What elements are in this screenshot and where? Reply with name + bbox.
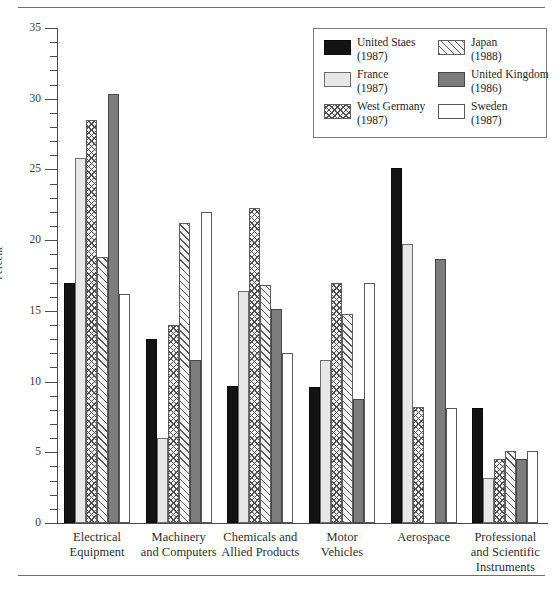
y-tick-label: 10 [17, 375, 41, 387]
bar-group [146, 28, 212, 523]
y-tick-minor [50, 509, 58, 510]
bar [516, 459, 527, 523]
bar [505, 451, 516, 523]
y-tick-minor [50, 56, 58, 57]
legend-series-name: France [357, 68, 388, 80]
y-tick-major [45, 28, 58, 29]
y-tick-minor [50, 325, 58, 326]
legend-swatch-crosshatch [324, 104, 351, 119]
y-tick-minor [50, 297, 58, 298]
chart-figure: 05101520253035 Percent ElectricalEquipme… [0, 0, 559, 590]
y-tick-minor [50, 127, 58, 128]
y-tick-label: 25 [17, 162, 41, 174]
x-category-label-line: Instruments [445, 560, 559, 575]
legend-label: Sweden(1987) [471, 100, 507, 127]
y-tick-label: 20 [17, 233, 41, 245]
x-category-label-line: Professional [445, 530, 559, 545]
legend-entry: Japan(1988) [438, 38, 544, 70]
bar [282, 353, 293, 523]
y-tick-minor [50, 466, 58, 467]
bar [227, 386, 238, 523]
legend-series-year: (1987) [471, 114, 507, 128]
bar [435, 259, 446, 523]
bar [157, 438, 168, 523]
legend-entry: West Germany(1987) [324, 102, 436, 134]
y-tick-minor [50, 42, 58, 43]
y-tick-minor [50, 481, 58, 482]
legend-column-left: United Staes(1987)France(1987)West Germa… [324, 38, 436, 134]
y-tick-minor [50, 283, 58, 284]
y-tick-minor [50, 353, 58, 354]
bar [494, 459, 505, 523]
bar [331, 283, 342, 523]
y-tick-label: 15 [17, 304, 41, 316]
y-tick-major [45, 99, 58, 100]
bar [238, 291, 249, 523]
bar-group [227, 28, 293, 523]
y-tick-major [45, 311, 58, 312]
bar [97, 257, 108, 523]
legend-series-name: Japan [471, 36, 497, 48]
bar [446, 408, 457, 523]
y-tick-minor [50, 141, 58, 142]
bar [190, 360, 201, 523]
y-tick-major [45, 240, 58, 241]
legend-entry: France(1987) [324, 70, 436, 102]
legend-swatch-diagonal-hatch [438, 40, 465, 55]
chart-legend: United Staes(1987)France(1987)West Germa… [313, 28, 547, 138]
bottom-rule [18, 575, 545, 576]
legend-entry: Sweden(1987) [438, 102, 544, 134]
legend-swatch-black [324, 40, 351, 55]
y-tick-label: 35 [17, 21, 41, 33]
y-tick-minor [50, 396, 58, 397]
bar-group [64, 28, 130, 523]
x-axis-line [57, 523, 548, 524]
legend-label: United Kingdom(1986) [471, 68, 549, 95]
y-tick-minor [50, 155, 58, 156]
legend-swatch-light-gray [324, 72, 351, 87]
legend-entry: United Kingdom(1986) [438, 70, 544, 102]
y-tick-major [45, 523, 58, 524]
legend-series-year: (1987) [357, 82, 388, 96]
legend-series-year: (1988) [471, 50, 502, 64]
bar [402, 244, 413, 523]
bar [527, 451, 538, 523]
bar [353, 399, 364, 523]
y-tick-minor [50, 268, 58, 269]
bar [249, 208, 260, 523]
y-tick-major [45, 452, 58, 453]
y-tick-minor [50, 184, 58, 185]
bar [364, 283, 375, 523]
bar [309, 387, 320, 523]
legend-series-year: (1987) [357, 50, 415, 64]
y-tick-label: 0 [17, 516, 41, 528]
bar [260, 285, 271, 523]
y-tick-minor [50, 85, 58, 86]
bar [108, 94, 119, 523]
y-tick-minor [50, 438, 58, 439]
bar [271, 309, 282, 523]
legend-series-year: (1987) [357, 114, 425, 128]
legend-column-right: Japan(1988)United Kingdom(1986)Sweden(19… [438, 38, 544, 134]
legend-swatch-dark-gray [438, 72, 465, 87]
legend-series-year: (1986) [471, 82, 549, 96]
legend-series-name: West Germany [357, 100, 425, 112]
bar [64, 283, 75, 523]
bar [179, 223, 190, 523]
y-tick-label: 30 [17, 92, 41, 104]
bar [472, 408, 483, 523]
y-tick-minor [50, 424, 58, 425]
y-tick-minor [50, 113, 58, 114]
y-tick-minor [50, 339, 58, 340]
y-tick-minor [50, 212, 58, 213]
bar [413, 407, 424, 523]
y-tick-minor [50, 198, 58, 199]
bar [391, 168, 402, 523]
legend-label: West Germany(1987) [357, 100, 425, 127]
bar [483, 478, 494, 523]
bar [146, 339, 157, 523]
legend-series-name: Sweden [471, 100, 507, 112]
bar [119, 294, 130, 523]
legend-label: Japan(1988) [471, 36, 502, 63]
x-category-label: Professionaland ScientificInstruments [445, 530, 559, 575]
